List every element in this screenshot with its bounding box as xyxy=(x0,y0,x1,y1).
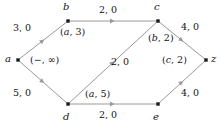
arrow-icon-b-c xyxy=(110,19,115,24)
node-dot-a[interactable] xyxy=(16,58,19,61)
graph-svg xyxy=(0,0,222,128)
node-dot-d[interactable] xyxy=(66,102,69,105)
node-dot-e[interactable] xyxy=(156,102,159,105)
node-dot-b[interactable] xyxy=(66,19,69,22)
node-dot-z[interactable] xyxy=(204,58,207,61)
arrow-icon-d-e xyxy=(110,102,115,107)
arrow-markers-group xyxy=(39,19,185,107)
node-dot-c[interactable] xyxy=(156,19,159,22)
graph-diagram-canvas: abcdez 3, 02, 04, 05, 02, 04, 02, 0 (−, … xyxy=(0,0,222,128)
